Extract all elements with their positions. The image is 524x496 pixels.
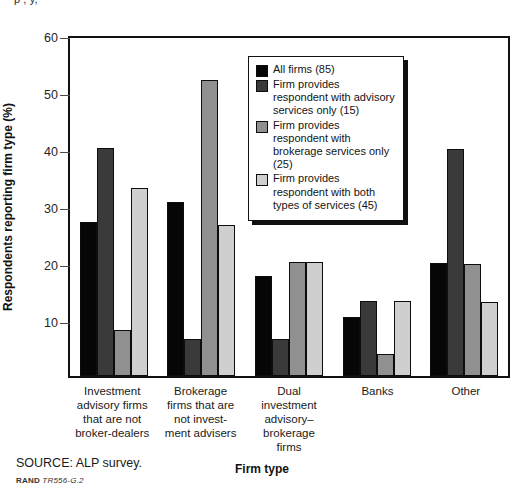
bar xyxy=(184,339,201,376)
bar-group xyxy=(420,38,508,376)
bar-set xyxy=(167,80,235,376)
bar xyxy=(80,222,97,376)
x-axis-label-line: Dual xyxy=(249,384,329,398)
bar xyxy=(481,302,498,376)
bar xyxy=(430,263,447,376)
rand-label: RAND xyxy=(16,476,40,485)
legend-swatch-icon xyxy=(256,65,268,77)
x-axis-label-line: brokerage xyxy=(249,426,329,440)
bar xyxy=(343,317,360,376)
bar-group xyxy=(70,38,158,376)
x-axis-label-line: firms xyxy=(249,440,329,454)
bar xyxy=(218,225,235,376)
legend-swatch-icon xyxy=(256,80,268,92)
legend-item: Firm provides respondent with advisory s… xyxy=(256,78,396,118)
source-note: SOURCE: ALP survey. xyxy=(16,456,142,470)
y-axis-tick xyxy=(60,95,70,96)
y-axis-tick xyxy=(60,209,70,210)
x-axis-label-line: firms that are xyxy=(160,398,240,412)
y-axis-tick-label: 30 xyxy=(24,202,58,216)
legend-item-label: All firms (85) xyxy=(273,63,335,76)
x-axis-label-line: Other xyxy=(426,384,506,398)
bar-set xyxy=(343,301,411,376)
clipped-title-sliver: p , y, xyxy=(14,0,38,5)
y-axis-tick-label: 60 xyxy=(24,31,58,45)
y-axis-title: Respondents reporting firm type (%) xyxy=(1,103,15,311)
x-axis-label-line: that are not xyxy=(72,412,152,426)
x-axis-label-line: Banks xyxy=(337,384,417,398)
bar xyxy=(394,301,411,376)
bar xyxy=(272,339,289,376)
bar xyxy=(289,262,306,376)
bar-set xyxy=(80,148,148,376)
x-axis-label: Banks xyxy=(333,384,421,470)
bar xyxy=(464,264,481,376)
rand-figure-id: RAND TR556-G.2 xyxy=(16,476,84,485)
x-axis-label-line: Investment xyxy=(72,384,152,398)
x-axis-label-line: advisory– xyxy=(249,412,329,426)
y-axis-tick-label: 40 xyxy=(24,145,58,159)
y-axis-tick-label: 50 xyxy=(24,88,58,102)
y-axis-tick-label: 20 xyxy=(24,259,58,273)
x-axis-label-line: not invest- xyxy=(160,412,240,426)
bar-set xyxy=(430,149,498,376)
x-axis-label-line: investment xyxy=(249,398,329,412)
bar xyxy=(306,262,323,376)
bar xyxy=(255,276,272,376)
x-axis-label: Dualinvestmentadvisory–brokeragefirms xyxy=(245,384,333,470)
y-axis-tick xyxy=(60,266,70,267)
legend-item: Firm provides respondent with brokerage … xyxy=(256,119,396,172)
rand-number: TR556-G.2 xyxy=(42,476,83,485)
figure-container: p , y, 102030405060 Respondents reportin… xyxy=(0,0,524,496)
legend-swatch-icon xyxy=(256,121,268,133)
bar xyxy=(360,301,377,376)
x-axis-label-line: advisory firms xyxy=(72,398,152,412)
legend-item-label: Firm provides respondent with advisory s… xyxy=(273,78,396,118)
legend-item: Firm provides respondent with both types… xyxy=(256,172,396,212)
x-axis-label-line: broker-dealers xyxy=(72,426,152,440)
y-axis-tick xyxy=(60,152,70,153)
x-axis-label-line: Brokerage xyxy=(160,384,240,398)
bar xyxy=(131,188,148,376)
x-axis-label: Brokeragefirms that arenot invest-ment a… xyxy=(156,384,244,470)
x-axis-label: Other xyxy=(422,384,510,470)
bar xyxy=(114,330,131,376)
bar xyxy=(377,354,394,376)
legend-item: All firms (85) xyxy=(256,63,396,77)
legend-item-label: Firm provides respondent with brokerage … xyxy=(273,119,396,172)
legend-wrapper: All firms (85)Firm provides respondent w… xyxy=(248,56,404,221)
y-axis-tick xyxy=(60,323,70,324)
legend-swatch-icon xyxy=(256,174,268,186)
bar xyxy=(167,202,184,376)
y-axis-tick xyxy=(60,38,70,39)
bar-set xyxy=(255,262,323,376)
legend-item-label: Firm provides respondent with both types… xyxy=(273,172,396,212)
y-axis-tick-label: 10 xyxy=(24,316,58,330)
x-axis-label-line: ment advisers xyxy=(160,426,240,440)
bar xyxy=(447,149,464,376)
legend-box: All firms (85)Firm provides respondent w… xyxy=(248,56,404,221)
bar-group xyxy=(158,38,246,376)
bar xyxy=(201,80,218,376)
bar xyxy=(97,148,114,376)
